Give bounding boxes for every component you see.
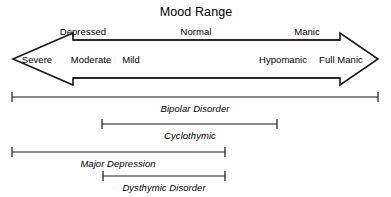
severity-label-full-manic: Full Manic <box>319 55 363 65</box>
zone-label-depressed: Depressed <box>60 27 106 37</box>
zone-label-manic: Manic <box>294 27 320 37</box>
range-label-cyclothymic: Cyclothymic <box>164 131 216 141</box>
range-bar-major-depression <box>12 147 225 157</box>
severity-label-mild: Mild <box>122 55 140 65</box>
severity-label-hypomanic: Hypomanic <box>259 55 307 65</box>
severity-label-moderate: Moderate <box>71 55 112 65</box>
range-bar-dysthymic-disorder <box>103 171 225 181</box>
mood-range-diagram: Mood Range Depressed Normal Manic Severe… <box>0 0 391 197</box>
severity-label-severe: Severe <box>22 55 52 65</box>
range-bar-cyclothymic <box>102 119 277 129</box>
range-label-bipolar-disorder: Bipolar Disorder <box>161 104 230 114</box>
range-bar-bipolar-disorder <box>12 92 378 102</box>
range-label-dysthymic-disorder: Dysthymic Disorder <box>122 183 205 193</box>
diagram-title: Mood Range <box>160 6 233 19</box>
zone-label-normal: Normal <box>181 27 212 37</box>
range-label-major-depression: Major Depression <box>80 159 155 169</box>
